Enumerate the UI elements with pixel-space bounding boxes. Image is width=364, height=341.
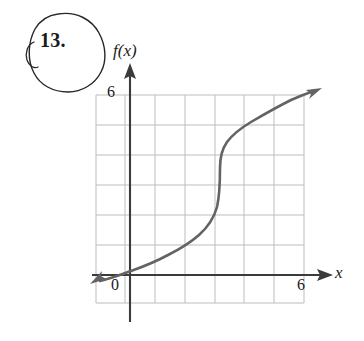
y-axis xyxy=(124,63,136,322)
graph-figure xyxy=(0,0,364,341)
y-axis-tick-label-6: 6 xyxy=(107,84,115,100)
x-axis-tick-label-6: 6 xyxy=(297,277,305,293)
hand-drawn-circle-annotation xyxy=(26,13,105,92)
x-axis-variable-label: x xyxy=(335,264,343,281)
worksheet-page: 13. f(x) 6 0 6 x xyxy=(0,0,364,341)
origin-label: 0 xyxy=(111,277,119,293)
problem-number-label: 13. xyxy=(40,30,66,50)
y-axis-function-label: f(x) xyxy=(113,42,137,59)
